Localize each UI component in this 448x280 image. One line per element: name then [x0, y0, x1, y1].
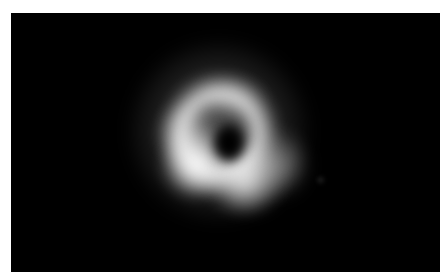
photon-ring-layer	[156, 68, 284, 200]
image-page	[0, 0, 448, 280]
southwest-bright-lobe	[161, 131, 233, 197]
north-limb-lobe	[187, 75, 273, 121]
image-caption	[11, 272, 440, 280]
west-limb-lobe	[159, 105, 215, 163]
eastern-speck	[316, 176, 325, 184]
diffuse-halo-layer	[131, 43, 307, 219]
south-bright-lobe	[207, 149, 283, 211]
black-hole-image-panel	[11, 13, 440, 272]
central-shadow	[211, 121, 247, 165]
east-limb-lobe	[247, 133, 305, 195]
